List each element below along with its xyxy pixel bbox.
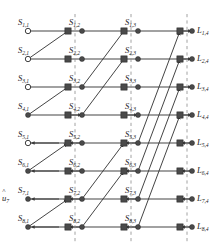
label-col4-r3: L3,4: [197, 82, 208, 91]
label-col3-r7: S7,3: [125, 186, 136, 195]
label-col1-r6: S6,1: [18, 158, 29, 167]
label-col2-r1: S1,2: [69, 18, 80, 27]
label-col3-r2: S2,3: [125, 46, 136, 55]
label-col3-r6: S6,3: [125, 158, 136, 167]
dot-node-r7-st3[interactable]: [190, 197, 195, 202]
square-node-r7-st3[interactable]: [177, 196, 183, 202]
square-node-r4-st1[interactable]: [65, 112, 71, 118]
factor-graph-figure: S1,1S2,1S3,1S4,1S5,1S6,1S7,1S8,1S1,2S2,2…: [0, 0, 224, 249]
diag-st1-r2-to-r1: [28, 31, 68, 59]
square-node-r6-st3[interactable]: [177, 168, 183, 174]
label-col1-r1: S1,1: [18, 18, 29, 27]
dot-node-r3-st3[interactable]: [190, 85, 195, 90]
diag-st1-r8-to-r7: [28, 199, 68, 227]
label-col1-r8: S8,1: [18, 214, 29, 223]
square-node-r3-st2[interactable]: [121, 84, 127, 90]
label-col1-r2: S2,1: [18, 46, 29, 55]
source-node-r8[interactable]: [26, 225, 31, 230]
label-col4-r4: L4,4: [197, 110, 208, 119]
square-node-r1-st3[interactable]: [177, 28, 183, 34]
source-node-r6[interactable]: [26, 169, 31, 174]
square-node-r8-st3[interactable]: [177, 224, 183, 230]
label-col2-r2: S2,2: [69, 46, 80, 55]
label-col2-r6: S6,2: [69, 158, 80, 167]
square-node-r2-st1[interactable]: [65, 56, 71, 62]
nodes-layer: [25, 28, 194, 230]
square-node-r5-st2[interactable]: [121, 140, 127, 146]
label-col1-r4: S4,1: [18, 102, 29, 111]
dot-node-r6-st1[interactable]: [80, 169, 85, 174]
dot-node-r4-st3[interactable]: [190, 113, 195, 118]
square-node-r3-st3[interactable]: [177, 84, 183, 90]
label-col2-r5: S5,2: [69, 130, 80, 139]
square-node-r4-st2[interactable]: [121, 112, 127, 118]
label-col2-r4: S4,2: [69, 102, 80, 111]
dot-node-r4-st2[interactable]: [136, 113, 141, 118]
label-col4-r5: L5,4: [197, 138, 208, 147]
label-col3-r5: S5,3: [125, 130, 136, 139]
dot-node-r6-st2[interactable]: [136, 169, 141, 174]
label-col2-r3: S3,2: [69, 74, 80, 83]
square-node-r1-st1[interactable]: [65, 28, 71, 34]
square-node-r4-st3[interactable]: [177, 112, 183, 118]
label-col2-r8: S8,2: [69, 214, 80, 223]
dot-node-r5-st1[interactable]: [80, 141, 85, 146]
dot-node-r1-st1[interactable]: [80, 29, 85, 34]
square-node-r8-st2[interactable]: [121, 224, 127, 230]
dot-node-r6-st3[interactable]: [190, 169, 195, 174]
source-node-r5[interactable]: [25, 140, 30, 145]
dot-node-r1-st2[interactable]: [136, 29, 141, 34]
dot-node-r3-st1[interactable]: [80, 85, 85, 90]
square-node-r7-st2[interactable]: [121, 196, 127, 202]
dot-node-r8-st2[interactable]: [136, 225, 141, 230]
label-col4-r6: L6,4: [197, 166, 208, 175]
label-col3-r8: S8,3: [125, 214, 136, 223]
source-node-r7[interactable]: [26, 197, 31, 202]
label-col2-r7: S7,2: [69, 186, 80, 195]
dot-node-r5-st3[interactable]: [190, 141, 195, 146]
label-col3-r4: S4,3: [125, 102, 136, 111]
edges-layer: [28, 31, 192, 227]
square-node-r5-st1[interactable]: [65, 140, 71, 146]
dot-node-r7-st2[interactable]: [136, 197, 141, 202]
diag-st1-r4-to-r3: [28, 87, 68, 115]
dot-node-r2-st2[interactable]: [136, 57, 141, 62]
square-node-r8-st1[interactable]: [65, 224, 71, 230]
dot-node-r2-st3[interactable]: [190, 57, 195, 62]
dot-node-r8-st1[interactable]: [80, 225, 85, 230]
square-node-r1-st2[interactable]: [121, 28, 127, 34]
square-node-r2-st2[interactable]: [121, 56, 127, 62]
square-node-r5-st3[interactable]: [177, 140, 183, 146]
source-node-r2[interactable]: [25, 56, 30, 61]
square-node-r3-st1[interactable]: [65, 84, 71, 90]
label-col4-r8: L8,4: [197, 222, 208, 231]
label-col4-r1: L1,4: [197, 26, 208, 35]
source-node-r1[interactable]: [25, 28, 30, 33]
square-node-r6-st2[interactable]: [121, 168, 127, 174]
label-col1-r3: S3,1: [18, 74, 29, 83]
dot-node-r8-st3[interactable]: [190, 225, 195, 230]
label-col4-r7: L7,4: [197, 194, 208, 203]
label-col4-r2: L2,4: [197, 54, 208, 63]
dot-node-r7-st1[interactable]: [80, 197, 85, 202]
dot-node-r4-st1[interactable]: [80, 113, 85, 118]
dot-node-r1-st3[interactable]: [190, 29, 195, 34]
label-input-estimate: u7: [2, 194, 9, 203]
dot-node-r3-st2[interactable]: [136, 85, 141, 90]
label-col3-r3: S3,3: [125, 74, 136, 83]
label-col1-r5: S5,1: [18, 130, 29, 139]
graph-canvas: [0, 0, 224, 249]
square-node-r7-st1[interactable]: [65, 196, 71, 202]
label-col1-r7: S7,1: [18, 186, 29, 195]
square-node-r2-st3[interactable]: [177, 56, 183, 62]
source-node-r3[interactable]: [25, 84, 30, 89]
source-node-r4[interactable]: [26, 113, 31, 118]
dot-node-r5-st2[interactable]: [136, 141, 141, 146]
label-col3-r1: S1,3: [125, 18, 136, 27]
diag-st1-r6-to-r5: [28, 143, 68, 171]
square-node-r6-st1[interactable]: [65, 168, 71, 174]
dot-node-r2-st1[interactable]: [80, 57, 85, 62]
